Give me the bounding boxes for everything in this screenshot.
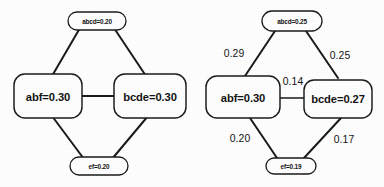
edge-left-top-to-left <box>52 28 80 76</box>
figure-canvas: abcd=0.20 abf=0.30 bcde=0.30 ef=0.20 <box>0 0 384 187</box>
edge-right-top-to-left <box>245 31 275 76</box>
node-left-bcde-label: bcde=0.30 <box>123 91 177 103</box>
diagram-right: 0.29 0.25 0.14 0.20 0.17 abcd=0.25 abf=0… <box>206 11 372 174</box>
node-left-abf-label: abf=0.30 <box>26 91 70 103</box>
edge-right-left-to-bottom <box>250 118 277 158</box>
edge-label-bottom-right: 0.17 <box>334 134 355 145</box>
edge-left-top-to-right <box>114 28 146 76</box>
node-right-top-label: abcd=0.25 <box>277 18 307 25</box>
figure-root: abcd=0.20 abf=0.30 bcde=0.30 ef=0.20 <box>0 0 384 187</box>
node-left-bcde[interactable]: bcde=0.30 <box>114 74 186 118</box>
edge-label-top-right: 0.25 <box>330 50 351 61</box>
node-right-bcde[interactable]: bcde=0.27 <box>304 80 372 118</box>
edge-label-middle: 0.14 <box>283 76 304 87</box>
diagram-svg: abcd=0.20 abf=0.30 bcde=0.30 ef=0.20 <box>0 0 384 187</box>
node-left-abf[interactable]: abf=0.30 <box>14 74 82 118</box>
edge-left-left-to-bottom <box>52 116 84 159</box>
node-right-bottom[interactable]: ef=0.19 <box>266 158 316 174</box>
edge-left-right-to-bottom <box>112 116 148 159</box>
diagram-left: abcd=0.20 abf=0.30 bcde=0.30 ef=0.20 <box>14 12 186 175</box>
node-right-bottom-label: ef=0.19 <box>281 163 302 170</box>
node-left-bottom[interactable]: ef=0.20 <box>70 157 128 175</box>
node-right-abf-label: abf=0.30 <box>221 92 265 104</box>
edge-label-top-left: 0.29 <box>224 48 245 59</box>
node-left-top[interactable]: abcd=0.20 <box>68 12 126 30</box>
node-right-abf[interactable]: abf=0.30 <box>206 76 280 118</box>
edge-label-bottom-left: 0.20 <box>230 133 251 144</box>
node-left-bottom-label: ef=0.20 <box>89 163 110 170</box>
node-right-bcde-label: bcde=0.27 <box>311 93 365 105</box>
node-right-top[interactable]: abcd=0.25 <box>262 11 322 31</box>
node-left-top-label: abcd=0.20 <box>82 18 112 25</box>
